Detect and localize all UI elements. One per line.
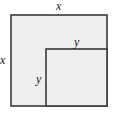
squares-diagram: x x y y — [0, 0, 124, 116]
inner-square — [46, 49, 107, 106]
outer-left-label: x — [0, 53, 6, 67]
outer-top-label: x — [55, 0, 62, 13]
inner-left-label: y — [35, 72, 42, 86]
inner-top-label: y — [73, 35, 80, 49]
